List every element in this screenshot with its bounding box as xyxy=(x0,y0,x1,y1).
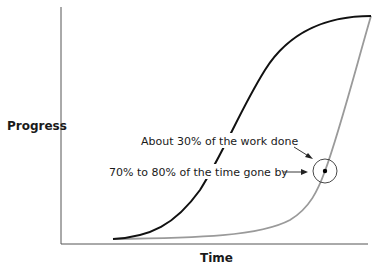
expected-progress-curve xyxy=(113,16,371,239)
actual-progress-curve xyxy=(113,16,371,239)
annotation-time-gone: 70% to 80% of the time gone by xyxy=(109,166,288,179)
y-axis-label: Progress xyxy=(7,119,67,133)
arrow-work-done xyxy=(294,147,313,159)
chart: About 30% of the work done 70% to 80% of… xyxy=(0,0,378,270)
x-axis-label: Time xyxy=(200,251,233,265)
highlight-dot xyxy=(323,169,327,173)
annotation-work-done: About 30% of the work done xyxy=(141,135,298,148)
